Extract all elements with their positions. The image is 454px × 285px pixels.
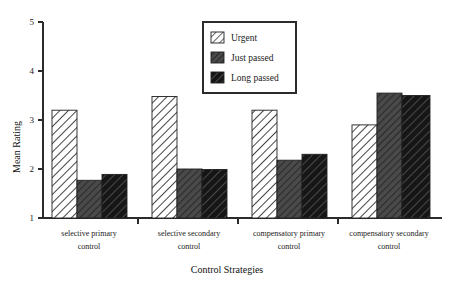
legend-swatch-just-passed: [211, 52, 224, 63]
y-tick-label-4: 4: [30, 66, 35, 76]
bar-urgent-3: [252, 110, 277, 218]
legend-label-just-passed: Just passed: [231, 53, 274, 63]
bar-long-passed-1: [102, 174, 127, 218]
bar-long-passed-2: [202, 170, 227, 219]
y-axis: 5 4 3 2 1 Mean Rating: [11, 17, 43, 223]
bar-urgent-4: [352, 125, 377, 218]
chart-legend: Urgent Just passed Long passed: [203, 22, 296, 93]
chart-svg: 5 4 3 2 1 Mean Rating: [0, 0, 454, 285]
bar-group-compensatory-primary-control: [252, 110, 327, 218]
legend-swatch-urgent: [211, 32, 224, 43]
cat-label-1-line2: control: [78, 242, 101, 251]
bar-group-selective-primary-control: [52, 110, 127, 218]
legend-swatch-long-passed: [211, 72, 224, 83]
y-axis-title: Mean Rating: [11, 121, 22, 173]
bar-group-selective-secondary-control: [152, 97, 227, 219]
cat-label-3-line1: compensatory primary: [253, 229, 325, 238]
cat-label-3-line2: control: [278, 242, 301, 251]
bar-chart-figure: 5 4 3 2 1 Mean Rating: [0, 0, 454, 285]
x-axis-title: Control Strategies: [191, 264, 264, 275]
y-tick-label-3: 3: [30, 115, 35, 125]
bar-urgent-1: [52, 110, 77, 218]
bar-just-passed-3: [277, 160, 302, 218]
legend-label-long-passed: Long passed: [231, 73, 279, 83]
cat-label-2-line2: control: [178, 242, 201, 251]
cat-label-4-line2: control: [378, 242, 401, 251]
x-category-labels: selective primary control selective seco…: [61, 229, 428, 251]
y-tick-label-5: 5: [30, 17, 35, 27]
bar-group-compensatory-secondary-control: [352, 93, 430, 218]
cat-label-4-line1: compensatory secondary: [349, 229, 428, 238]
bar-urgent-2: [152, 97, 177, 219]
y-tick-label-1: 1: [30, 213, 35, 223]
x-axis: [43, 218, 442, 224]
bar-just-passed-2: [177, 169, 202, 218]
y-tick-label-2: 2: [30, 164, 35, 174]
bar-just-passed-4: [377, 93, 402, 218]
bar-long-passed-3: [302, 154, 327, 218]
cat-label-2-line1: selective secondary: [158, 229, 220, 238]
bar-just-passed-1: [77, 180, 102, 218]
bar-long-passed-4: [402, 96, 430, 219]
cat-label-1-line1: selective primary: [61, 229, 116, 238]
legend-label-urgent: Urgent: [231, 33, 258, 43]
